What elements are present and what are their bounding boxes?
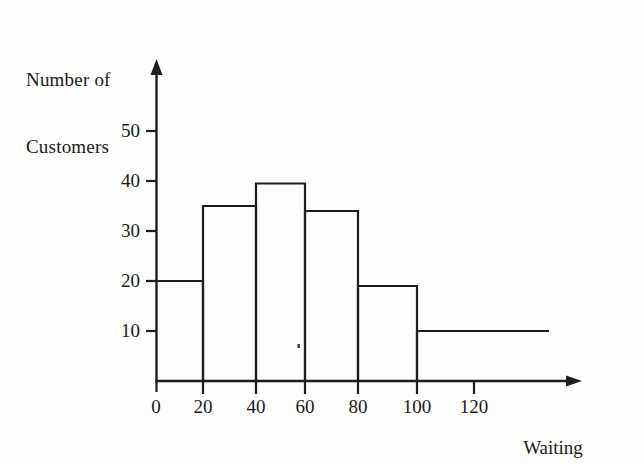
y-tick-label-20: 20 <box>96 270 140 292</box>
y-tick-label-40: 40 <box>96 170 140 192</box>
bar-60-80 <box>305 211 358 381</box>
x-tick-label-20: 20 <box>180 396 226 418</box>
x-tick-label-60: 60 <box>282 396 328 418</box>
y-tick-label-10: 10 <box>96 320 140 342</box>
bar-0-20 <box>157 281 203 381</box>
y-tick-label-30: 30 <box>96 220 140 242</box>
x-tick-label-100: 100 <box>394 396 440 418</box>
x-tick-label-80: 80 <box>335 396 381 418</box>
histogram-chart: Number of Customers Waiting Time 10 20 3… <box>0 0 644 464</box>
x-axis-title: Waiting Time <box>498 392 608 464</box>
y-tick-label-50: 50 <box>96 120 140 142</box>
bar-20-40 <box>203 206 256 381</box>
y-axis-title-line-1: Number of <box>26 69 111 91</box>
bar-100-120 <box>417 331 549 381</box>
x-tick-label-0: 0 <box>133 396 179 418</box>
bar-40-60 <box>256 184 305 382</box>
bar-80-100 <box>358 286 417 381</box>
x-axis-title-line-1: Waiting <box>498 437 608 459</box>
x-tick-label-120: 120 <box>451 396 497 418</box>
x-axis-arrow-icon <box>566 376 582 387</box>
scan-speck <box>298 344 300 348</box>
x-tick-label-40: 40 <box>233 396 279 418</box>
y-axis-arrow-icon <box>151 59 163 75</box>
